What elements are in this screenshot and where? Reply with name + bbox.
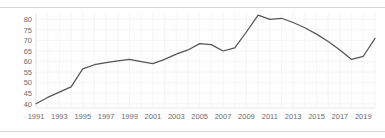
y-tick-label: 80 (24, 15, 32, 24)
x-tick-label: 2007 (215, 112, 232, 121)
y-tick-label: 65 (24, 47, 32, 56)
x-tick-label: 2005 (191, 112, 208, 121)
y-tick-label: 60 (24, 57, 32, 66)
x-tick-label: 1993 (51, 112, 68, 121)
x-tick-label: 1997 (98, 112, 115, 121)
y-tick-label: 70 (24, 36, 32, 45)
x-tick-label: 1995 (74, 112, 91, 121)
x-tick-label: 2015 (308, 112, 325, 121)
x-tick-label: 1999 (121, 112, 138, 121)
x-tick-label: 2009 (238, 112, 255, 121)
chart-page: 404550556065707580 199119931995199719992… (0, 0, 385, 138)
x-tick-label: 2003 (168, 112, 185, 121)
y-tick-label: 75 (24, 26, 32, 35)
x-axis-tick-labels: 1991199319951997199920012003200520072009… (28, 112, 372, 121)
bottom-divider (0, 131, 385, 132)
grid-lines (36, 13, 375, 108)
x-tick-label: 2001 (145, 112, 162, 121)
y-tick-label: 50 (24, 78, 32, 87)
y-tick-label: 40 (24, 100, 32, 109)
data-series-line (36, 15, 375, 104)
line-chart: 404550556065707580 199119931995199719992… (0, 9, 385, 121)
top-divider (0, 7, 385, 8)
y-tick-label: 55 (24, 68, 32, 77)
x-tick-label: 2017 (332, 112, 349, 121)
x-tick-label: 2013 (285, 112, 302, 121)
y-tick-label: 45 (24, 89, 32, 98)
axis-lines (36, 13, 375, 108)
x-tick-label: 2019 (355, 112, 372, 121)
x-tick-label: 2011 (262, 112, 278, 121)
x-tick-label: 1991 (28, 112, 45, 121)
y-axis-tick-labels: 404550556065707580 (24, 15, 32, 108)
chart-svg: 404550556065707580 199119931995199719992… (0, 9, 385, 121)
